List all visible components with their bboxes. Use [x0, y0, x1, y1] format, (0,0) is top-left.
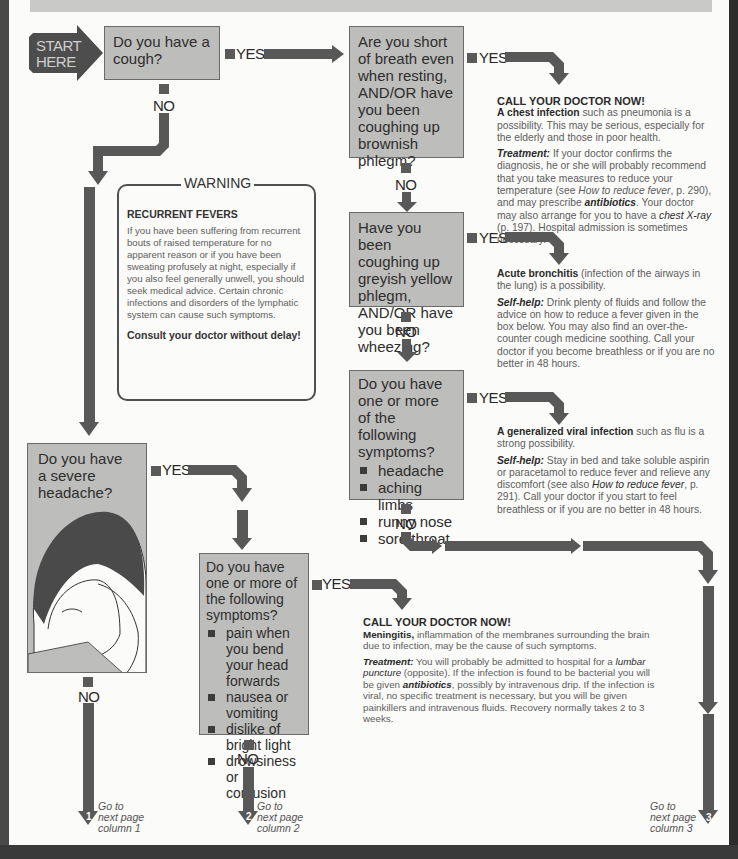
warning-body: If you have been suffering from recurren…	[127, 225, 309, 321]
question-greyish-phlegm[interactable]: Have you been coughing up greyish yellow…	[349, 212, 464, 307]
question-short-of-breath[interactable]: Are you short of breath even when restin…	[349, 26, 464, 158]
connector-square	[401, 504, 411, 514]
yes-label: YES	[479, 389, 508, 406]
no-label: NO	[395, 323, 417, 340]
yes-label: YES	[322, 575, 351, 592]
arrow-bend-down-icon	[78, 113, 170, 193]
top-banner	[30, 0, 712, 12]
arrow-shaft	[703, 714, 714, 812]
answer-chest-infection: CALL YOUR DOCTOR NOW! A chest infection …	[497, 95, 715, 251]
question-flu-symptoms[interactable]: Do you have one or more of the following…	[349, 370, 464, 500]
answer-viral-infection: A generalized viral infection such as fl…	[497, 426, 719, 520]
page-edge-right	[729, 0, 738, 859]
connector-square	[467, 393, 477, 403]
yes-label: YES	[236, 45, 265, 62]
warning-title: WARNING	[181, 175, 254, 191]
connector-square	[467, 233, 477, 243]
connector-square	[151, 466, 161, 476]
arrow-shaft	[402, 339, 411, 353]
warning-cta: Consult your doctor without delay!	[127, 329, 309, 341]
goto-column-1[interactable]: Go tonext pagecolumn 1	[98, 801, 144, 834]
question-severe-headache[interactable]: Do you have a severe headache?	[27, 443, 147, 673]
arrow-bend-down-icon	[505, 389, 575, 429]
no-label: NO	[395, 515, 417, 532]
connector-square	[312, 580, 322, 590]
start-label: STARTHERE	[36, 38, 81, 70]
connector-square	[159, 84, 169, 94]
connector-square	[244, 740, 254, 750]
goto-column-2[interactable]: Go tonext pagecolumn 2	[257, 801, 303, 834]
yes-label: YES	[162, 461, 191, 478]
warning-heading: RECURRENT FEVERS	[127, 208, 309, 220]
arrow-shaft	[84, 187, 95, 427]
goto-column-3[interactable]: Go tonext pagecolumn 3	[650, 801, 696, 834]
connector-square	[401, 163, 411, 173]
arrow-shaft	[703, 586, 714, 704]
headache-illustration-icon	[28, 504, 146, 673]
connector-square	[83, 677, 93, 687]
arrow-bend-right-icon	[400, 532, 730, 592]
arrow-bend-down-icon	[505, 49, 575, 89]
connector-square	[467, 53, 477, 63]
arrow-down-icon	[397, 352, 417, 364]
no-label: NO	[395, 176, 417, 193]
question-meningitis-symptoms[interactable]: Do you have one or more of the following…	[199, 553, 309, 735]
page-edge-left	[0, 0, 9, 859]
goto-number-3: 3	[706, 812, 712, 823]
goto-number-2: 2	[246, 811, 252, 822]
arrow-shaft	[83, 703, 94, 813]
connector-square	[225, 49, 235, 59]
yes-label: YES	[479, 229, 508, 246]
answer-meningitis: CALL YOUR DOCTOR NOW! Meningitis, inflam…	[363, 617, 663, 729]
connector-square	[401, 312, 411, 322]
page-edge-bottom	[0, 845, 738, 859]
arrow-shaft	[243, 767, 254, 813]
arrow-right-icon	[264, 45, 346, 63]
no-label: NO	[237, 750, 259, 767]
goto-number-1: 1	[86, 811, 92, 822]
arrow-bend-down-icon	[505, 229, 575, 269]
arrow-bend-down-icon	[188, 462, 258, 504]
warning-box: WARNING RECURRENT FEVERS If you have bee…	[117, 184, 316, 401]
arrow-down-icon	[79, 422, 101, 438]
no-label: NO	[153, 97, 175, 114]
arrow-bend-down-icon	[350, 576, 420, 616]
symptom-list: pain when you bend your head forwards na…	[206, 625, 302, 801]
answer-acute-bronchitis: Acute bronchitis (infection of the airwa…	[497, 268, 717, 374]
yes-label: YES	[479, 49, 508, 66]
question-cough[interactable]: Do you have a cough?	[104, 26, 220, 80]
arrow-shaft	[237, 510, 248, 540]
arrow-down-icon	[232, 538, 254, 552]
